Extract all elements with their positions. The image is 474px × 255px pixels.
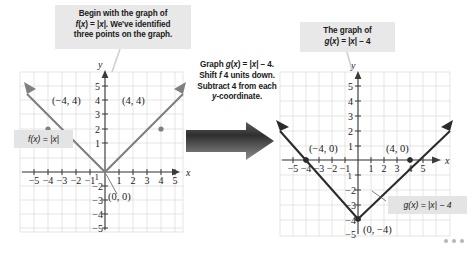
- decorative-dots: [444, 239, 464, 243]
- callout-right: The graph of g(x) = |x| − 4: [300, 22, 395, 52]
- transform-arrow: [186, 122, 274, 160]
- instruction-line2: Shift f 4 units down.: [183, 71, 291, 82]
- dot-2: [452, 239, 456, 243]
- dot-1: [444, 239, 448, 243]
- function-label-f-text: f(x) = |x|: [28, 134, 59, 144]
- callout-left-line1: Begin with the graph of: [59, 9, 187, 20]
- dot-3: [460, 239, 464, 243]
- function-label-g: g(x) = |x| − 4: [388, 196, 467, 214]
- instruction-line3: Subtract 4 from each: [183, 82, 291, 93]
- function-label-f: f(x) = |x|: [14, 130, 73, 148]
- callout-left-line2: f(x) = |x|. We've identified: [59, 20, 187, 31]
- function-label-g-text: g(x) = |x| − 4: [404, 200, 452, 210]
- callout-left-leader: [112, 49, 120, 72]
- instruction-text: Graph g(x) = |x| − 4. Shift f 4 units do…: [183, 60, 291, 103]
- callout-right-line1: The graph of: [303, 26, 392, 37]
- callout-left-line3: three points on the graph.: [59, 30, 187, 41]
- instruction-line4: y-coordinate.: [183, 92, 291, 103]
- instruction-line1: Graph g(x) = |x| − 4.: [183, 60, 291, 71]
- callout-right-line2: g(x) = |x| − 4: [303, 37, 392, 48]
- callout-left: Begin with the graph of f(x) = |x|. We'v…: [55, 5, 191, 49]
- callout-right-leader: [347, 52, 352, 70]
